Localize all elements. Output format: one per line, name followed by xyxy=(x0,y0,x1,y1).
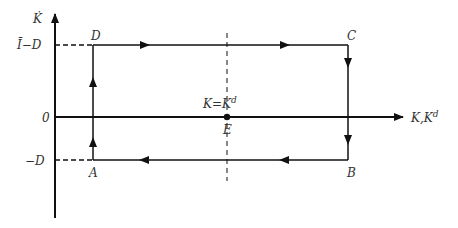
arrow-right-icon xyxy=(140,41,150,49)
equilibrium-label-main: K=K xyxy=(202,97,232,111)
equilibrium-label-superscript: d xyxy=(231,95,237,105)
point-label-d: D xyxy=(90,29,101,43)
y-axis-label: K̇ xyxy=(32,11,43,26)
arrow-left-icon xyxy=(139,156,149,164)
arrow-left-icon xyxy=(279,156,289,164)
point-label-e: E xyxy=(222,123,232,137)
point-label-a: A xyxy=(88,166,98,180)
arrow-down-icon xyxy=(344,58,352,68)
point-label-b: B xyxy=(346,166,356,180)
x-axis-label-main: K,K xyxy=(410,111,434,125)
point-label-c: C xyxy=(347,29,356,43)
phase-diagram: K̇ K,Kd Ī−D 0 −D D C A B E K=Kd xyxy=(0,0,458,228)
y-tick-top: Ī−D xyxy=(16,37,42,52)
x-axis-label: K,Kd xyxy=(410,109,439,125)
x-axis-label-superscript: d xyxy=(433,109,439,119)
equilibrium-label: K=Kd xyxy=(202,95,237,111)
arrow-right-icon xyxy=(280,41,290,49)
arrow-up-icon xyxy=(89,137,97,147)
equilibrium-point xyxy=(224,114,230,120)
arrow-up-icon xyxy=(89,77,97,87)
arrow-down-icon xyxy=(344,135,352,145)
y-tick-bottom: −D xyxy=(25,154,45,168)
y-tick-zero: 0 xyxy=(42,111,50,125)
